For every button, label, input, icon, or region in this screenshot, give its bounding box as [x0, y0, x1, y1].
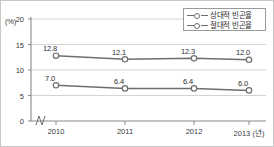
legend-marker-icon — [187, 11, 208, 20]
y-tick-label-0: 0 — [6, 117, 24, 126]
legend-label-absolute-poverty: 절대적 빈곤율 — [210, 21, 252, 30]
legend-marker-icon — [187, 21, 208, 30]
data-label-absolute-2010: 7.0 — [38, 74, 62, 83]
data-label-relative-2010: 12.8 — [38, 44, 62, 53]
data-point-relative-2011 — [122, 57, 127, 62]
data-point-absolute-2013 — [246, 88, 251, 93]
data-label-absolute-2013: 6.0 — [231, 79, 255, 88]
data-point-relative-2010 — [53, 53, 58, 58]
y-tick-label-15: 15 — [6, 41, 24, 50]
data-point-relative-2012 — [191, 56, 196, 61]
data-label-absolute-2011: 6.4 — [107, 77, 131, 86]
y-tick-label-10: 10 — [6, 66, 24, 75]
data-label-relative-2013: 12.0 — [231, 48, 255, 57]
data-point-absolute-2012 — [191, 86, 196, 91]
legend-label-relative-poverty: 상대적 빈곤율 — [210, 11, 252, 20]
data-label-relative-2011: 12.1 — [107, 48, 131, 57]
data-point-absolute-2011 — [122, 86, 127, 91]
chart-legend: 상대적 빈곤율 절대적 빈곤율 — [183, 8, 266, 31]
y-tick-label-5: 5 — [6, 92, 24, 101]
legend-item-relative-poverty[interactable]: 상대적 빈곤율 — [187, 11, 262, 20]
data-label-relative-2012: 12.3 — [176, 47, 200, 56]
data-label-absolute-2012: 6.4 — [176, 77, 200, 86]
x-tick-label-2010: 2010 — [38, 127, 74, 136]
x-tick-label-2011: 2011 — [107, 127, 143, 136]
data-point-relative-2013 — [246, 57, 251, 62]
x-tick-label-2013: 2013 (년) — [226, 127, 272, 138]
legend-item-absolute-poverty[interactable]: 절대적 빈곤율 — [187, 21, 262, 30]
data-point-absolute-2010 — [53, 83, 58, 88]
y-tick-label-20: 20 — [6, 15, 24, 24]
x-tick-label-2012: 2012 — [176, 127, 212, 136]
poverty-rate-line-chart: (%) 20 15 10 5 0 2010 2011 2012 2013 (년)… — [0, 0, 274, 147]
